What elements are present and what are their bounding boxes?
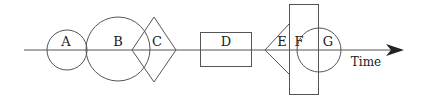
axis-label-time: Time bbox=[351, 55, 381, 69]
label-g: G bbox=[323, 34, 333, 49]
label-a: A bbox=[60, 34, 71, 49]
circle-b bbox=[86, 17, 150, 81]
timeline-diagram: A B C D E F G Time bbox=[0, 0, 423, 102]
label-b: B bbox=[113, 34, 123, 49]
label-e: E bbox=[277, 34, 287, 49]
shape-b: B bbox=[86, 17, 150, 81]
label-c: C bbox=[152, 34, 162, 49]
triangle-e bbox=[265, 24, 289, 74]
label-d: D bbox=[221, 34, 231, 49]
shape-e: E bbox=[265, 24, 289, 74]
